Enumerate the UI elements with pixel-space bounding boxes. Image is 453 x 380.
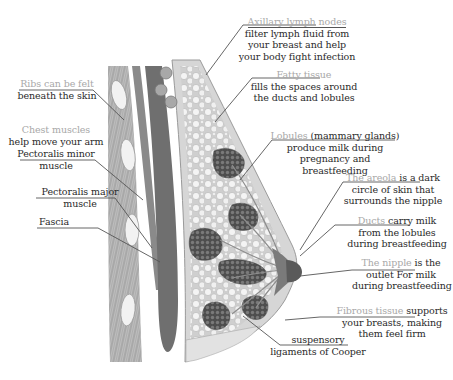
label-fatty-tissue: Fatty tissue fills the spaces around the…: [250, 69, 358, 104]
pec-minor-1: Pectoralis minor: [14, 148, 98, 160]
pec-major-2: muscle: [38, 198, 122, 210]
label-lobules: Lobules (mammary glands) produce milk du…: [262, 130, 408, 176]
cooper-2: ligaments of Cooper: [268, 346, 368, 358]
term-lobules: Lobules: [271, 130, 308, 141]
term-chest-muscles: Chest muscles: [6, 124, 106, 136]
lobules-suffix: (mammary glands): [308, 130, 400, 141]
term-ducts: Ducts: [358, 215, 385, 226]
label-suspensory-ligaments: suspensory ligaments of Cooper: [268, 334, 368, 357]
label-ducts: Ducts carry milk from the lobules during…: [344, 215, 450, 250]
label-nipple: The nipple is the outlet For milk during…: [352, 257, 450, 292]
lobules-desc-2: pregnancy and: [262, 153, 408, 165]
label-areola: The areola is a dark circle of skin that…: [340, 172, 446, 207]
label-pectoralis-minor: Pectoralis minor muscle: [14, 148, 98, 171]
ducts-desc-2: during breastfeeding: [344, 238, 450, 250]
label-ribs: Ribs can be felt beneath the skin: [14, 78, 100, 101]
nipple-suffix: is the: [412, 257, 441, 268]
areola-suffix: is a dark: [396, 172, 440, 183]
fascia-text: Fascia: [30, 216, 78, 228]
areola-desc-2: surrounds the nipple: [340, 195, 446, 207]
breast-anatomy-diagram: Axillary lymph nodes filter lymph fluid …: [0, 0, 453, 380]
term-fibrous-tissue: Fibrous tissue: [336, 305, 403, 316]
areola-desc-1: circle of skin that: [340, 184, 446, 196]
axillary-desc-2: your breast and help: [238, 39, 356, 51]
label-axillary-lymph-nodes: Axillary lymph nodes filter lymph fluid …: [238, 16, 356, 62]
lobules-desc-1: produce milk during: [262, 142, 408, 154]
fibrous-desc-1: your breasts, making: [332, 317, 452, 329]
chest-muscles-desc: help move your arm: [6, 136, 106, 148]
ducts-suffix: carry milk: [385, 215, 436, 226]
axillary-desc-3: your body fight infection: [238, 51, 356, 63]
nipple-desc-2: during breastfeeding: [352, 280, 450, 292]
term-fatty-tissue: Fatty tissue: [250, 69, 358, 81]
term-areola: The areola: [346, 172, 396, 183]
term-nipple: The nipple: [362, 257, 412, 268]
term-axillary-lymph-nodes: Axillary lymph nodes: [248, 16, 347, 28]
cooper-1: suspensory: [268, 334, 368, 346]
nipple-desc-1: outlet For milk: [352, 269, 450, 281]
fatty-desc-1: fills the spaces around: [250, 81, 358, 93]
label-chest-muscles: Chest muscles help move your arm: [6, 124, 106, 147]
nipple: [286, 260, 302, 282]
term-ribs: Ribs can be felt: [14, 78, 100, 90]
pec-minor-2: muscle: [14, 160, 98, 172]
fatty-desc-2: the ducts and lobules: [250, 92, 358, 104]
chest-wall: [108, 66, 142, 362]
ducts-desc-1: from the lobules: [344, 227, 450, 239]
fibrous-suffix: supports: [403, 305, 447, 316]
ribs-desc: beneath the skin: [14, 90, 100, 102]
axillary-desc-1: filter lymph fluid from: [238, 28, 356, 40]
label-pectoralis-major: Pectoralis major muscle: [38, 186, 122, 209]
pec-major-1: Pectoralis major: [38, 186, 122, 198]
label-fascia: Fascia: [30, 216, 78, 228]
